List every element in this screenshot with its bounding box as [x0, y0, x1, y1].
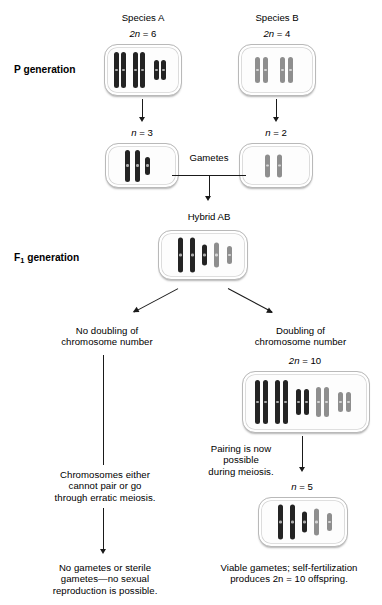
chromosome: [278, 505, 282, 540]
chromosome: [161, 60, 165, 80]
chromosome: [265, 154, 269, 177]
arrowhead: [139, 117, 145, 122]
chromosome: [275, 380, 279, 424]
chromosome: [190, 238, 194, 273]
chromosome: [114, 52, 118, 88]
species-b-ploidy: 2n = 4: [222, 28, 332, 39]
cell-interior: [162, 234, 243, 275]
chromosome: [227, 246, 231, 264]
cell-viable-gamete: [258, 497, 348, 547]
hybrid-label: Hybrid AB: [159, 211, 259, 222]
cell-interior: [246, 375, 365, 428]
chromosome: [283, 380, 287, 424]
cell-species-b: [238, 44, 316, 96]
arrowhead: [273, 117, 279, 122]
arrow-to-left-branch: [134, 288, 179, 312]
species-b-name: Species B: [222, 12, 332, 23]
arrowhead: [205, 196, 211, 201]
chromosome: [277, 154, 281, 177]
chromosome: [140, 52, 144, 88]
chromosome: [125, 150, 129, 182]
left-branch-line: [103, 355, 104, 465]
cell-interior: [109, 147, 174, 183]
cell-species-a: [104, 44, 182, 96]
arrowhead: [299, 467, 305, 472]
cell-hybrid-ab: [158, 230, 248, 280]
chromosome: [255, 57, 259, 83]
right-branch-outcome-text: Viable gametes; self-fertilization produ…: [198, 562, 380, 585]
chromosome: [304, 389, 308, 415]
chromosome: [338, 392, 342, 412]
right-branch-arrow: [302, 436, 303, 470]
gametes-label: Gametes: [167, 152, 251, 163]
diagram-canvas: P generation F1 generation Species A 2n …: [0, 0, 382, 605]
chromosome: [133, 52, 137, 88]
chromosome: [145, 157, 149, 175]
chromosome: [135, 150, 139, 182]
chromosome: [296, 389, 300, 415]
chromosome: [327, 513, 331, 531]
chromosome: [324, 387, 328, 417]
right-branch-heading: Doubling of chromosome number: [228, 325, 373, 348]
chromosome: [214, 243, 218, 268]
chromosome: [290, 505, 294, 540]
chromosome: [263, 57, 267, 83]
chromosome: [346, 392, 350, 412]
chromosome: [288, 57, 292, 83]
cell-gamete-b: [239, 143, 313, 188]
right-branch-middle-text: Pairing is now possible during meiosis.: [186, 443, 296, 477]
chromosome: [316, 387, 320, 417]
cell-interior: [108, 48, 177, 91]
species-a-ploidy: 2n = 6: [88, 28, 198, 39]
chromosome: [314, 509, 318, 536]
left-branch-middle-text: Chromosomes either cannot pair or go thr…: [25, 469, 185, 503]
cell-doubled-hybrid: [242, 371, 370, 433]
chromosome: [154, 60, 158, 80]
gamete-ploidy-label: n = 5: [252, 481, 352, 492]
f1-generation-label: F1 generation: [14, 252, 79, 263]
fusion-stem: [209, 175, 210, 198]
gamete-a-ploidy: n = 3: [92, 127, 192, 138]
left-branch-heading: No doubling of chromosome number: [32, 325, 182, 348]
chromosome: [263, 380, 267, 424]
chromosome: [280, 57, 284, 83]
chromosome: [202, 245, 206, 266]
cell-interior: [242, 48, 311, 91]
gamete-b-ploidy: n = 2: [226, 127, 326, 138]
chromosome: [121, 52, 125, 88]
arrow-to-right-branch: [228, 288, 273, 312]
arrow-a-to-gamete: [142, 99, 143, 119]
chromosome: [178, 238, 182, 273]
doubled-ploidy-label: 2n = 10: [250, 355, 360, 366]
cell-gamete-a: [105, 143, 179, 188]
left-branch-arrow: [103, 508, 104, 552]
chromosome: [255, 380, 259, 424]
species-a-name: Species A: [88, 12, 198, 23]
p-generation-label: P generation: [14, 64, 76, 75]
chromosome: [302, 512, 306, 533]
cell-interior: [243, 147, 308, 183]
cell-interior: [262, 501, 343, 542]
arrowhead: [100, 549, 106, 554]
arrow-b-to-gamete: [276, 99, 277, 119]
left-branch-outcome-text: No gametes or sterile gametes—no sexual …: [22, 562, 188, 596]
